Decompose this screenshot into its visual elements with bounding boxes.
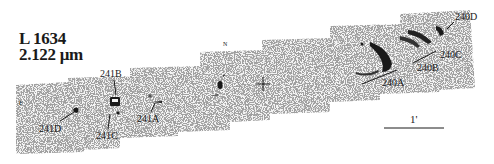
knot-label-241a: 241A (137, 114, 159, 124)
astronomy-figure: L 1634 2.122 μm N E 241B 241A 241D 241C … (0, 0, 494, 164)
wavelength-label: 2.122 μm (19, 46, 83, 63)
knot-label-241d: 241D (39, 124, 61, 134)
knot-label-240a: 240A (382, 78, 404, 88)
knot-label-240c: 240C (440, 50, 462, 60)
leader-lines (0, 0, 494, 164)
east-label: E (19, 100, 23, 106)
knot-label-240d: 240D (455, 12, 477, 22)
knot-label-241b: 241B (100, 69, 122, 79)
knot-label-241c: 241C (96, 131, 118, 141)
scale-bar-label: 1' (410, 114, 417, 125)
north-label: N (223, 41, 227, 47)
knot-label-240b: 240B (417, 63, 439, 73)
